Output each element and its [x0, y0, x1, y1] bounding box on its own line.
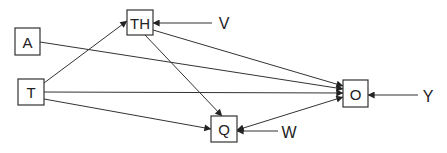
node-t-label: T: [26, 84, 35, 101]
node-o-label: O: [350, 86, 362, 103]
node-t: T: [18, 79, 44, 105]
node-q-label: Q: [218, 121, 230, 138]
edge-t-to-q: [44, 99, 211, 129]
edge-t-to-th: [44, 21, 127, 83]
external-y-label: Y: [423, 88, 434, 105]
node-th: TH: [127, 10, 153, 35]
node-o: O: [343, 80, 368, 107]
path-diagram: A T TH Q O V W Y: [0, 0, 447, 153]
edges: [40, 21, 418, 131]
edge-th-to-o: [153, 30, 343, 86]
edge-a-to-o: [40, 42, 343, 89]
node-q: Q: [211, 116, 237, 142]
node-a-label: A: [22, 34, 32, 51]
node-a: A: [15, 28, 40, 55]
external-w-label: W: [281, 124, 297, 141]
edge-t-to-o: [44, 92, 343, 93]
external-v-label: V: [219, 15, 230, 32]
node-th-label: TH: [130, 15, 150, 32]
